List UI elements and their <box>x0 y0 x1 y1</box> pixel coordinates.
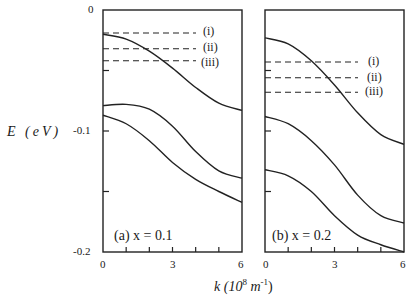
panel-a-curve <box>103 115 242 202</box>
panel-b-xtick-3: 3 <box>332 258 338 270</box>
x-axis-label-unit: m <box>247 279 261 294</box>
panel-a-curve <box>103 104 242 178</box>
ytick-neg-0.1: -0.1 <box>73 124 90 136</box>
ytick-neg-0.2: -0.2 <box>73 245 90 257</box>
panel-b-label: (b) x = 0.2 <box>272 228 331 244</box>
panel-a-level-i: (i) <box>203 24 214 39</box>
panel-a-curve <box>103 34 242 110</box>
panel-b-curve <box>265 38 404 144</box>
x-axis-label-base: k (10 <box>214 279 242 294</box>
panel-a-xtick-0: 0 <box>100 258 106 270</box>
panel-b-curve <box>265 116 404 222</box>
panel-b-level-ii: (ii) <box>367 70 382 85</box>
y-axis-label: E (eV) <box>7 124 61 140</box>
panel-b-level-iii: (iii) <box>365 84 383 99</box>
panel-b-xtick-0: 0 <box>263 258 269 270</box>
panel-a-xtick-6: 6 <box>238 258 244 270</box>
panel-a-label: (a) x = 0.1 <box>114 228 172 244</box>
panel-a-level-iii: (iii) <box>201 55 219 70</box>
x-axis-label-close: ) <box>268 279 273 294</box>
x-axis-label: k (108 m-1) <box>214 277 273 295</box>
panel-a-xtick-3: 3 <box>170 258 176 270</box>
panel-b-xtick-6: 6 <box>400 258 406 270</box>
ytick-0: 0 <box>88 3 94 15</box>
panel-b-level-i: (i) <box>368 54 379 69</box>
panel-a-level-ii: (ii) <box>203 40 218 55</box>
panel-a-frame <box>103 10 242 252</box>
x-axis-label-unit-exp: -1 <box>261 277 269 287</box>
